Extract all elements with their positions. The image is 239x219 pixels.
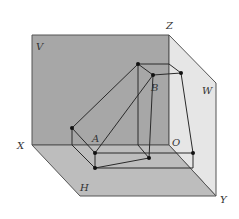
point-a-double-prime xyxy=(191,151,195,155)
projection-diagram: V W H X Y Z O A B xyxy=(0,0,239,219)
point-b-double-prime xyxy=(179,71,183,75)
label-w-plane: W xyxy=(202,85,213,96)
point-b-prime xyxy=(136,62,140,66)
point-a-prime xyxy=(70,126,74,130)
label-x-axis: X xyxy=(16,140,25,151)
point-b xyxy=(147,156,151,160)
label-origin: O xyxy=(172,137,180,148)
point-B xyxy=(151,73,155,77)
label-point-b: B xyxy=(150,82,158,93)
v-plane xyxy=(32,35,169,145)
label-z-axis: Z xyxy=(165,20,174,31)
point-A xyxy=(93,151,97,155)
label-h-plane: H xyxy=(79,182,89,193)
point-a xyxy=(93,166,97,170)
label-point-a: A xyxy=(91,133,99,144)
label-y-axis: Y xyxy=(220,194,228,205)
